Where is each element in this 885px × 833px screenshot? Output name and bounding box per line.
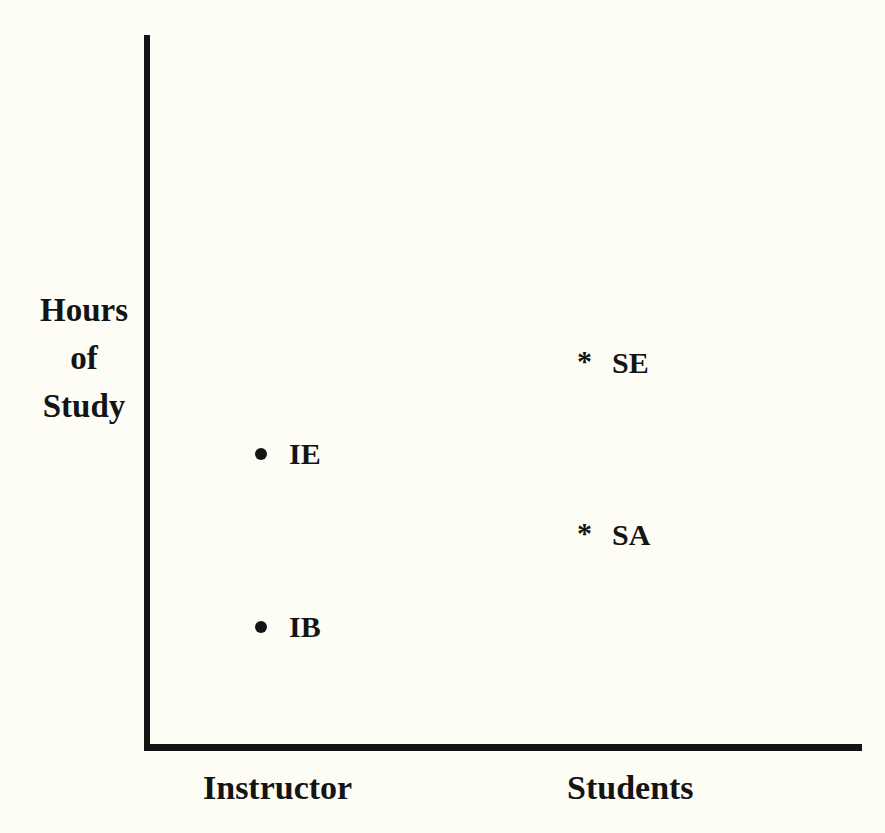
asterisk-marker-icon: * xyxy=(577,346,592,376)
x-axis-line xyxy=(144,744,862,751)
point-label-sa: SA xyxy=(612,518,650,552)
point-label-ie: IE xyxy=(289,437,321,471)
asterisk-marker-icon: * xyxy=(577,518,592,548)
dot-marker-icon xyxy=(255,621,267,633)
data-point-ib: IB xyxy=(255,610,321,644)
y-axis-label-line-2: of xyxy=(26,334,142,382)
data-point-se: * SE xyxy=(577,346,649,380)
data-point-sa: * SA xyxy=(577,518,650,552)
y-axis-label-line-3: Study xyxy=(26,382,142,430)
point-label-se: SE xyxy=(612,346,649,380)
point-label-ib: IB xyxy=(289,610,321,644)
x-category-students: Students xyxy=(567,768,694,808)
y-axis-label: Hours of Study xyxy=(26,286,142,430)
dot-marker-icon xyxy=(255,448,267,460)
y-axis-label-line-1: Hours xyxy=(26,286,142,334)
y-axis-line xyxy=(144,35,150,751)
data-point-ie: IE xyxy=(255,437,321,471)
x-category-instructor: Instructor xyxy=(203,768,352,808)
